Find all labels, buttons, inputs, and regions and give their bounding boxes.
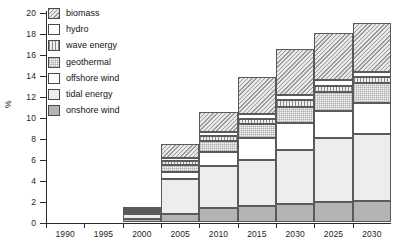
- y-axis-tick-label: 2: [0, 198, 36, 207]
- x-axis-line: [46, 223, 391, 224]
- bar-segment-onshore-wind: [199, 208, 237, 222]
- y-axis-tick-label: 0: [0, 219, 36, 228]
- legend-swatch-onshore: [48, 105, 60, 116]
- bar-segment-geothermal: [353, 83, 391, 103]
- bar-segment-geothermal: [161, 165, 199, 171]
- bar-segment-hydro: [276, 95, 314, 100]
- bar-segment-offshore-wind: [161, 172, 199, 179]
- y-axis-tick-label: 6: [0, 156, 36, 165]
- bar-2025: [314, 33, 352, 222]
- bar-segment-geothermal: [276, 107, 314, 124]
- bar-2010: [199, 112, 237, 222]
- bar-segment-hydro: [314, 80, 352, 85]
- bar-2005: [161, 144, 199, 222]
- bar-segment-biomass: [199, 112, 237, 132]
- bar-segment-offshore-wind: [314, 111, 352, 138]
- legend: biomasshydrowave energygeothermaloffshor…: [48, 6, 143, 119]
- bar-segment-tidal-energy: [161, 179, 199, 214]
- bar-2000: [123, 208, 161, 222]
- bar-segment-tidal-energy: [199, 166, 237, 208]
- legend-label-biomass: biomass: [66, 8, 100, 19]
- bar-segment-wave-energy: [353, 77, 391, 83]
- bar-2015: [238, 77, 276, 222]
- bar-segment-biomass: [314, 33, 352, 80]
- legend-label-geothermal: geothermal: [66, 57, 111, 68]
- legend-item-hydro[interactable]: hydro: [48, 22, 143, 38]
- y-axis-title: %: [3, 100, 13, 108]
- legend-label-offshore: offshore wind: [66, 73, 119, 84]
- stacked-bar-chart: % 02468101214161820 19901995200020052010…: [0, 0, 393, 245]
- x-axis-tick-label: 1990: [42, 230, 88, 239]
- bar-segment-wave-energy: [314, 86, 352, 92]
- bar-segment-tidal-energy: [353, 134, 391, 201]
- bar-segment-onshore-wind: [353, 201, 391, 222]
- bar-segment-onshore-wind: [161, 214, 199, 222]
- bar-segment-offshore-wind: [199, 152, 237, 167]
- bar-segment-wave-energy: [238, 119, 276, 124]
- x-axis-tick-label: 2030: [272, 230, 318, 239]
- y-axis-tick-label: 18: [0, 30, 36, 39]
- bar-segment-hydro: [199, 132, 237, 136]
- legend-item-geothermal[interactable]: geothermal: [48, 55, 143, 71]
- bar-segment-tidal-energy: [123, 214, 161, 220]
- bar-segment-offshore-wind: [276, 123, 314, 149]
- bar-segment-geothermal: [238, 124, 276, 138]
- x-axis-tick-label: 2030: [349, 230, 393, 239]
- legend-swatch-geothermal: [48, 57, 60, 68]
- bar-segment-geothermal: [199, 141, 237, 152]
- bar-segment-hydro: [161, 158, 199, 161]
- legend-swatch-offshore: [48, 73, 60, 84]
- legend-item-onshore[interactable]: onshore wind: [48, 103, 143, 119]
- y-axis-tick-label: 20: [0, 9, 36, 18]
- bar-segment-onshore-wind: [123, 219, 161, 222]
- legend-label-wave: wave energy: [66, 40, 117, 51]
- y-axis-tick-label: 8: [0, 135, 36, 144]
- legend-swatch-tidal: [48, 89, 60, 100]
- bar-segment-onshore-wind: [238, 206, 276, 222]
- legend-item-biomass[interactable]: biomass: [48, 6, 143, 22]
- bar-segment-biomass: [276, 49, 314, 95]
- y-axis-tick-label: 4: [0, 177, 36, 186]
- bar-segment-tidal-energy: [314, 138, 352, 202]
- legend-swatch-hydro: [48, 24, 60, 35]
- bar-segment-tidal-energy: [276, 150, 314, 205]
- legend-label-tidal: tidal energy: [66, 89, 113, 100]
- bar-2030: [353, 23, 391, 223]
- bar-segment-wave-energy: [161, 161, 199, 165]
- bar-segment-hydro: [238, 114, 276, 119]
- bar-segment-geothermal: [314, 92, 352, 111]
- legend-label-onshore: onshore wind: [66, 105, 120, 116]
- x-axis-tick-label: 2025: [311, 230, 357, 239]
- bar-segment-hydro: [353, 72, 391, 77]
- legend-item-offshore[interactable]: offshore wind: [48, 71, 143, 87]
- bar-segment-biomass: [161, 144, 199, 158]
- bar-segment-onshore-wind: [314, 202, 352, 222]
- bar-segment-tidal-energy: [238, 160, 276, 206]
- y-axis-tick-label: 14: [0, 72, 36, 81]
- x-axis-tick-label: 2005: [157, 230, 203, 239]
- bar-segment-biomass: [238, 77, 276, 114]
- y-axis-tick-label: 10: [0, 114, 36, 123]
- y-axis-tick-label: 16: [0, 51, 36, 60]
- x-axis-tick-label: 2010: [196, 230, 242, 239]
- x-axis-tick-label: 2015: [234, 230, 280, 239]
- bar-segment-wave-energy: [276, 100, 314, 106]
- bar-segment-offshore-wind: [238, 138, 276, 160]
- legend-item-tidal[interactable]: tidal energy: [48, 87, 143, 103]
- x-axis-tick-label: 2000: [119, 230, 165, 239]
- legend-item-wave[interactable]: wave energy: [48, 38, 143, 54]
- legend-swatch-wave: [48, 40, 60, 51]
- x-axis-tick-label: 1995: [81, 230, 127, 239]
- legend-swatch-biomass: [48, 8, 60, 19]
- bar-segment-biomass: [123, 207, 161, 209]
- bar-segment-offshore-wind: [353, 103, 391, 133]
- bar-segment-biomass: [353, 23, 391, 72]
- bar-2030: [276, 49, 314, 222]
- bar-segment-onshore-wind: [276, 204, 314, 222]
- bar-segment-wave-energy: [199, 136, 237, 141]
- legend-label-hydro: hydro: [66, 24, 89, 35]
